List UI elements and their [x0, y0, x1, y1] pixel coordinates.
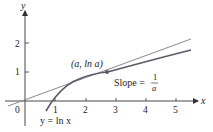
- slope-denominator: a: [152, 83, 156, 93]
- x-tick-label-3: 3: [113, 105, 118, 115]
- tangent-to-ln-diagram: 1 2 3 4 5 0 1 2 x y (a, ln a) Slope = 1 …: [0, 0, 213, 132]
- y-tick-label-2: 2: [15, 39, 20, 49]
- y-ticks: [25, 43, 29, 72]
- origin-label: 0: [15, 105, 20, 115]
- x-tick-label-2: 2: [83, 105, 88, 115]
- x-tick-label-1: 1: [53, 105, 58, 115]
- slope-numerator: 1: [153, 72, 157, 82]
- curve-label: y = ln x: [40, 115, 71, 126]
- x-axis-label: x: [200, 95, 206, 106]
- y-axis-label: y: [20, 0, 26, 11]
- slope-label: Slope =: [114, 77, 145, 88]
- tangent-point: [105, 70, 109, 74]
- x-tick-label-5: 5: [173, 105, 178, 115]
- point-label: (a, ln a): [71, 58, 104, 70]
- y-tick-label-1: 1: [15, 67, 20, 77]
- x-tick-label-4: 4: [143, 105, 148, 115]
